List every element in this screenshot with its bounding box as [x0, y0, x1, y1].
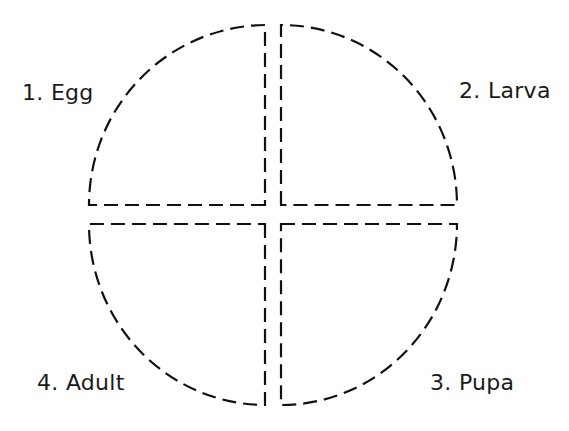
stage-label-larva: 2. Larva: [459, 78, 551, 103]
quadrant-larva: [281, 25, 457, 205]
stage-label-pupa: 3. Pupa: [430, 370, 514, 395]
stage-label-adult: 4. Adult: [37, 370, 125, 395]
life-cycle-diagram: [0, 0, 569, 431]
stage-label-egg: 1. Egg: [22, 80, 94, 105]
quadrant-egg: [89, 25, 265, 205]
